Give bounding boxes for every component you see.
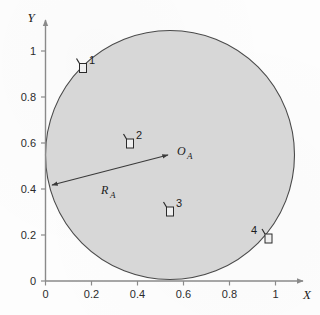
y-tick-label-1: 1 [30, 45, 36, 57]
x-tick-label-0: 0 [42, 288, 48, 300]
data-point-marker [167, 207, 174, 216]
x-tick-label-1: 1 [272, 288, 278, 300]
data-point-marker [127, 139, 134, 148]
x-axis-label: X [302, 287, 312, 302]
data-point-label: 2 [136, 129, 142, 141]
y-tick-label-0-8: 0.8 [21, 91, 36, 103]
x-tick-label-0-2: 0.2 [84, 288, 99, 300]
data-point-marker [265, 234, 272, 243]
x-tick-label-0-6: 0.6 [176, 288, 191, 300]
y-tick-label-0-4: 0.4 [21, 183, 36, 195]
y-axis-label: Y [27, 10, 36, 25]
data-point-label: 1 [89, 54, 95, 66]
data-point-antenna [77, 59, 80, 64]
data-point-label: 4 [251, 224, 257, 236]
data-point-label: 3 [176, 197, 182, 209]
figure-canvas: 0 0.2 0.4 0.6 0.8 1 0 0.2 0.4 0.6 0.8 1 … [0, 0, 320, 315]
center-label-subscript: A [186, 151, 193, 161]
x-tick-label-0-4: 0.4 [130, 288, 145, 300]
scatter-plot: 0 0.2 0.4 0.6 0.8 1 0 0.2 0.4 0.6 0.8 1 … [0, 0, 320, 315]
y-tick-label-0-6: 0.6 [21, 137, 36, 149]
data-point-marker [80, 64, 87, 73]
x-tick-label-0-8: 0.8 [222, 288, 237, 300]
y-tick-label-0: 0 [30, 275, 36, 287]
center-label-text: O [177, 144, 186, 158]
radius-label-text: R [100, 183, 109, 197]
y-tick-label-0-2: 0.2 [21, 229, 36, 241]
radius-label-subscript: A [109, 190, 116, 200]
